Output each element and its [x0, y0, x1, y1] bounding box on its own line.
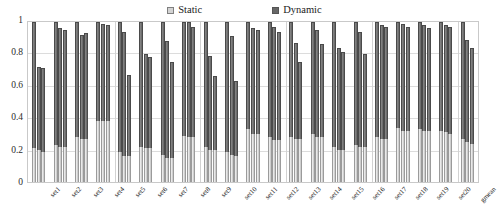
- bar-segment-static: [170, 158, 174, 182]
- bar-segment-static: [311, 134, 315, 182]
- bar-segment-dynamic: [448, 27, 452, 134]
- bar-segment-static: [122, 156, 126, 182]
- bar-segment-static: [32, 148, 36, 182]
- bar-stacked: [208, 56, 212, 182]
- bar-stacked: [384, 27, 388, 182]
- y-axis: 00.20.40.60.81: [0, 0, 27, 223]
- bar-stacked: [106, 25, 110, 182]
- bar-segment-static: [213, 150, 217, 182]
- bar-segment-dynamic: [106, 25, 110, 121]
- bar-segment-dynamic: [289, 22, 293, 137]
- bar-stacked: [37, 67, 41, 182]
- bar-stacked: [268, 22, 272, 182]
- bar-group: [392, 22, 413, 182]
- bar-segment-dynamic: [332, 22, 336, 147]
- bar-stacked: [337, 48, 341, 182]
- x-axis-tick-label: set6: [156, 186, 169, 199]
- bar-stacked: [54, 22, 58, 182]
- bar-group: [457, 22, 478, 182]
- x-axis-tick-label: set3: [92, 186, 105, 199]
- bar-segment-dynamic: [234, 81, 238, 156]
- bar-segment-static: [225, 152, 229, 182]
- bar-stacked: [58, 28, 62, 182]
- bar-group: [49, 22, 70, 182]
- bar-group: [414, 22, 435, 182]
- bar-segment-static: [354, 145, 358, 182]
- bar-segment-static: [418, 129, 422, 182]
- bar-segment-dynamic: [384, 27, 388, 139]
- bar-segment-static: [396, 128, 400, 182]
- bar-segment-static: [332, 147, 336, 182]
- bar-stacked: [161, 22, 165, 182]
- bar-segment-static: [127, 156, 131, 182]
- bar-segment-static: [165, 158, 169, 182]
- bar-group: [264, 22, 285, 182]
- bar-segment-static: [80, 139, 84, 182]
- bar-segment-dynamic: [470, 48, 474, 144]
- y-axis-tick-label: 1: [0, 16, 23, 26]
- bar-segment-static: [375, 137, 379, 182]
- bar-segment-dynamic: [320, 44, 324, 137]
- bar-stacked: [375, 22, 379, 182]
- x-axis-tick-label: set4: [113, 186, 126, 199]
- y-axis-tick-label: 0.6: [0, 81, 23, 91]
- bar-segment-static: [401, 131, 405, 182]
- bar-stacked: [170, 62, 174, 182]
- bar-segment-dynamic: [63, 30, 67, 147]
- bar-stacked: [363, 54, 367, 182]
- bar-segment-dynamic: [358, 32, 362, 147]
- bar-stacked: [396, 22, 400, 182]
- bar-stacked: [470, 48, 474, 182]
- bar-group: [371, 22, 392, 182]
- bar-stacked: [311, 22, 315, 182]
- bar-stacked: [448, 27, 452, 182]
- bar-segment-dynamic: [204, 22, 208, 147]
- bar-segment-static: [96, 121, 100, 182]
- x-axis-tick-label: set17: [393, 186, 408, 201]
- bar-segment-dynamic: [208, 56, 212, 150]
- bar-segment-dynamic: [213, 76, 217, 150]
- bar-stacked: [213, 76, 217, 182]
- bar-segment-dynamic: [41, 68, 45, 151]
- bar-segment-static: [470, 144, 474, 182]
- bar-segment-dynamic: [75, 22, 79, 137]
- bar-segment-static: [439, 131, 443, 182]
- bar-segment-dynamic: [341, 52, 345, 150]
- bar-stacked: [139, 22, 143, 182]
- y-axis-tick-label: 0: [0, 178, 23, 188]
- bar-stacked: [418, 22, 422, 182]
- bar-segment-dynamic: [144, 54, 148, 148]
- x-axis-tick-label: set20: [457, 186, 472, 201]
- bar-segment-static: [384, 139, 388, 182]
- bar-segment-dynamic: [246, 22, 250, 129]
- legend-entry-dynamic: Dynamic: [272, 5, 322, 16]
- bar-segment-static: [106, 121, 110, 182]
- bar-stacked: [32, 22, 36, 182]
- bar-segment-static: [84, 139, 88, 182]
- x-axis-tick-label: set18: [414, 186, 429, 201]
- x-axis-tick-label: set13: [307, 186, 322, 201]
- bar-segment-static: [268, 137, 272, 182]
- bar-segment-dynamic: [363, 54, 367, 147]
- x-axis-tick-label: set7: [178, 186, 191, 199]
- x-axis-tick-label: set2: [70, 186, 83, 199]
- bar-stacked: [354, 22, 358, 182]
- bar-group: [114, 22, 135, 182]
- bar-segment-dynamic: [84, 33, 88, 139]
- bar-stacked: [289, 22, 293, 182]
- bar-stacked: [118, 22, 122, 182]
- bar-segment-dynamic: [294, 43, 298, 139]
- bar-segment-static: [182, 136, 186, 182]
- bar-segment-static: [272, 140, 276, 182]
- bar-segment-static: [208, 150, 212, 182]
- bar-segment-static: [298, 139, 302, 182]
- bar-stacked: [225, 22, 229, 182]
- chart-legend: Static Dynamic: [0, 2, 489, 18]
- bar-segment-dynamic: [311, 22, 315, 134]
- bar-segment-dynamic: [354, 22, 358, 145]
- x-axis-tick-label: set8: [199, 186, 212, 199]
- bar-stacked: [422, 25, 426, 182]
- bar-segment-dynamic: [268, 22, 272, 137]
- x-axis-tick-label: set16: [371, 186, 386, 201]
- bar-stacked: [406, 27, 410, 182]
